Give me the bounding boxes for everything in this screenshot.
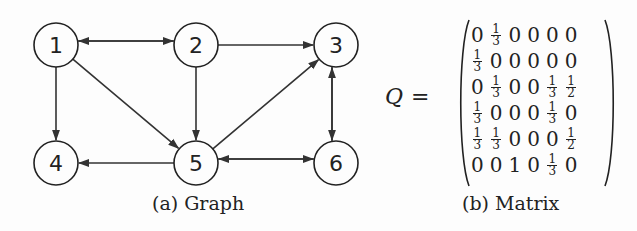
matrix-cell: 13 xyxy=(543,152,562,178)
matrix-block: Q= 0130000130000001300131213000130131300… xyxy=(385,18,625,186)
node-label: 5 xyxy=(189,151,203,176)
matrix-cell: 0 xyxy=(487,152,506,178)
edge-5-to-3 xyxy=(213,60,319,149)
matrix-row: 13000130 xyxy=(468,100,580,126)
fraction: 12 xyxy=(566,76,576,99)
matrix-cell: 0 xyxy=(543,126,562,152)
matrix-row: 0130000 xyxy=(468,22,580,48)
matrix-cell: 0 xyxy=(524,152,543,178)
fraction: 13 xyxy=(473,50,483,73)
node-5: 5 xyxy=(174,141,218,185)
node-3: 3 xyxy=(314,23,358,67)
matrix-cell: 0 xyxy=(543,48,562,74)
edge-1-to-5 xyxy=(73,59,179,148)
matrix-cell: 1 xyxy=(505,152,524,178)
matrix-cell: 0 xyxy=(543,22,562,48)
matrix-cell: 0 xyxy=(524,74,543,100)
matrix-cell: 0 xyxy=(505,22,524,48)
matrix-cell: 0 xyxy=(524,126,543,152)
node-2: 2 xyxy=(174,23,218,67)
matrix-caption: (b) Matrix xyxy=(462,192,559,214)
matrix-cell: 13 xyxy=(487,22,506,48)
matrix-symbol: Q xyxy=(385,84,403,109)
matrix-cell: 0 xyxy=(524,100,543,126)
matrix-cell: 0 xyxy=(468,74,487,100)
matrix-cell: 13 xyxy=(543,100,562,126)
matrix-row: 1300000 xyxy=(468,48,580,74)
equals-sign: = xyxy=(411,84,429,109)
matrix-cell: 13 xyxy=(487,74,506,100)
matrix-cell: 0 xyxy=(562,100,581,126)
node-1: 1 xyxy=(34,23,78,67)
matrix-table: 0130000130000001300131213000130131300012… xyxy=(468,22,580,178)
node-label: 6 xyxy=(329,151,343,176)
matrix-cell: 0 xyxy=(562,152,581,178)
node-label: 4 xyxy=(49,151,63,176)
matrix-cell: 0 xyxy=(505,48,524,74)
fraction: 13 xyxy=(473,128,483,151)
matrix-cell: 0 xyxy=(487,100,506,126)
right-paren xyxy=(603,18,619,188)
fraction: 13 xyxy=(547,76,557,99)
node-4: 4 xyxy=(34,141,78,185)
matrix-cell: 0 xyxy=(487,48,506,74)
matrix-cell: 0 xyxy=(505,126,524,152)
matrix-row: 0010130 xyxy=(468,152,580,178)
matrix-cell: 12 xyxy=(562,126,581,152)
matrix-row: 131300012 xyxy=(468,126,580,152)
matrix-equation-label: Q= xyxy=(385,84,429,109)
matrix-cell: 0 xyxy=(524,22,543,48)
fraction: 13 xyxy=(491,128,501,151)
matrix-cell: 13 xyxy=(468,126,487,152)
matrix-cell: 13 xyxy=(468,100,487,126)
matrix-cell: 13 xyxy=(543,74,562,100)
matrix-row: 013001312 xyxy=(468,74,580,100)
matrix-cell: 0 xyxy=(468,22,487,48)
fraction: 13 xyxy=(473,102,483,125)
node-label: 1 xyxy=(49,33,63,58)
matrix-cell: 0 xyxy=(562,48,581,74)
matrix-cell: 0 xyxy=(505,100,524,126)
node-label: 3 xyxy=(329,33,343,58)
fraction: 13 xyxy=(547,154,557,177)
fraction: 13 xyxy=(491,76,501,99)
graph-caption: (a) Graph xyxy=(152,192,244,214)
matrix-cell: 12 xyxy=(562,74,581,100)
fraction: 13 xyxy=(547,102,557,125)
node-label: 2 xyxy=(189,33,203,58)
matrix-cell: 13 xyxy=(468,48,487,74)
matrix-cell: 0 xyxy=(562,22,581,48)
matrix-cell: 0 xyxy=(468,152,487,178)
fraction: 12 xyxy=(566,128,576,151)
fraction: 13 xyxy=(491,24,501,47)
matrix-cell: 0 xyxy=(524,48,543,74)
matrix-cell: 13 xyxy=(487,126,506,152)
node-6: 6 xyxy=(314,141,358,185)
matrix-cell: 0 xyxy=(505,74,524,100)
